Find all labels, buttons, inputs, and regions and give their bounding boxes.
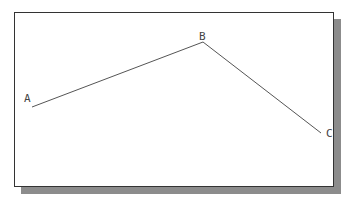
segment-b-c [203, 42, 321, 133]
point-label-c: C [326, 128, 333, 139]
point-label-a: A [24, 93, 31, 104]
point-label-b: B [199, 31, 206, 42]
segment-a-b [32, 42, 203, 107]
diagram-canvas [0, 0, 360, 202]
